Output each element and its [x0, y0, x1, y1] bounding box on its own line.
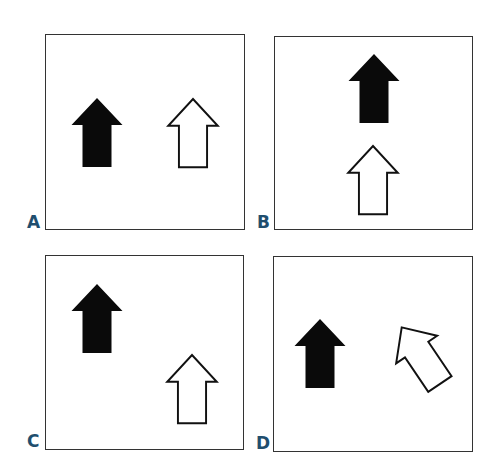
- arrow-up-filled-icon: [72, 98, 123, 167]
- arrow-up-outline-icon: [167, 355, 216, 423]
- arrow-up-outline-icon: [348, 146, 397, 214]
- arrow-rotated-outline-icon: [381, 314, 460, 398]
- arrow-up-filled-icon: [295, 319, 346, 388]
- arrow-up-filled-icon: [72, 284, 123, 353]
- arrow-up-outline-icon: [168, 99, 217, 167]
- arrows-layer: [0, 0, 503, 468]
- arrow-up-filled-icon: [349, 54, 400, 123]
